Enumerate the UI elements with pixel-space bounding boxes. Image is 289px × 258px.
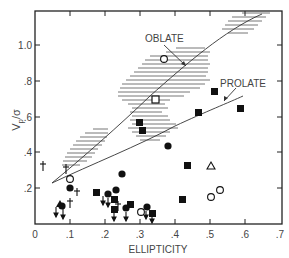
prolate-annotation: PROLATE — [220, 78, 266, 89]
svg-text:.4: .4 — [171, 229, 180, 240]
svg-text:.8: .8 — [24, 76, 33, 87]
x-tick-labels: 0 .1 .2 .3 .4 .5 .6 .7 — [32, 229, 284, 240]
scatter-chart: 0 .1 .2 .3 .4 .5 .6 .7 .2 .4 .6 .8 1.0 E… — [0, 0, 289, 258]
x-axis-label: ELLIPTICITY — [129, 244, 188, 255]
svg-text:.3: .3 — [136, 229, 145, 240]
svg-text:.4: .4 — [24, 147, 33, 158]
oblate-annotation: OBLATE — [145, 33, 184, 44]
svg-text:.7: .7 — [276, 229, 285, 240]
svg-text:1.0: 1.0 — [18, 40, 32, 51]
svg-text:.2: .2 — [24, 183, 33, 194]
svg-text:.2: .2 — [101, 229, 110, 240]
svg-text:.6: .6 — [241, 229, 250, 240]
svg-text:.1: .1 — [66, 229, 75, 240]
open-square-series — [152, 96, 159, 103]
svg-text:0: 0 — [32, 229, 38, 240]
open-triangle-series — [207, 162, 215, 169]
svg-text:.5: .5 — [206, 229, 215, 240]
data-markers — [40, 56, 244, 223]
prolate-curve — [52, 96, 243, 183]
filled-square-series — [93, 88, 244, 217]
